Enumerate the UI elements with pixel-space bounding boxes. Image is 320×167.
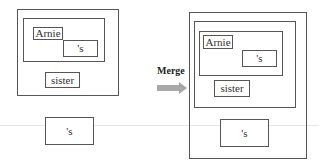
merge-label: Merge (157, 65, 185, 76)
right-merged-possessive-word: 's (220, 119, 269, 147)
left-possessive-word: 's (63, 40, 98, 57)
left-sister-word: sister (45, 72, 80, 88)
right-sister-word: sister (214, 80, 250, 97)
right-possessive-word: 's (242, 50, 277, 67)
merge-arrow-icon (157, 82, 187, 94)
right-arnie-word: Arnie (203, 35, 233, 49)
left-separate-possessive-word: 's (45, 117, 94, 145)
left-arnie-word: Arnie (33, 27, 63, 40)
